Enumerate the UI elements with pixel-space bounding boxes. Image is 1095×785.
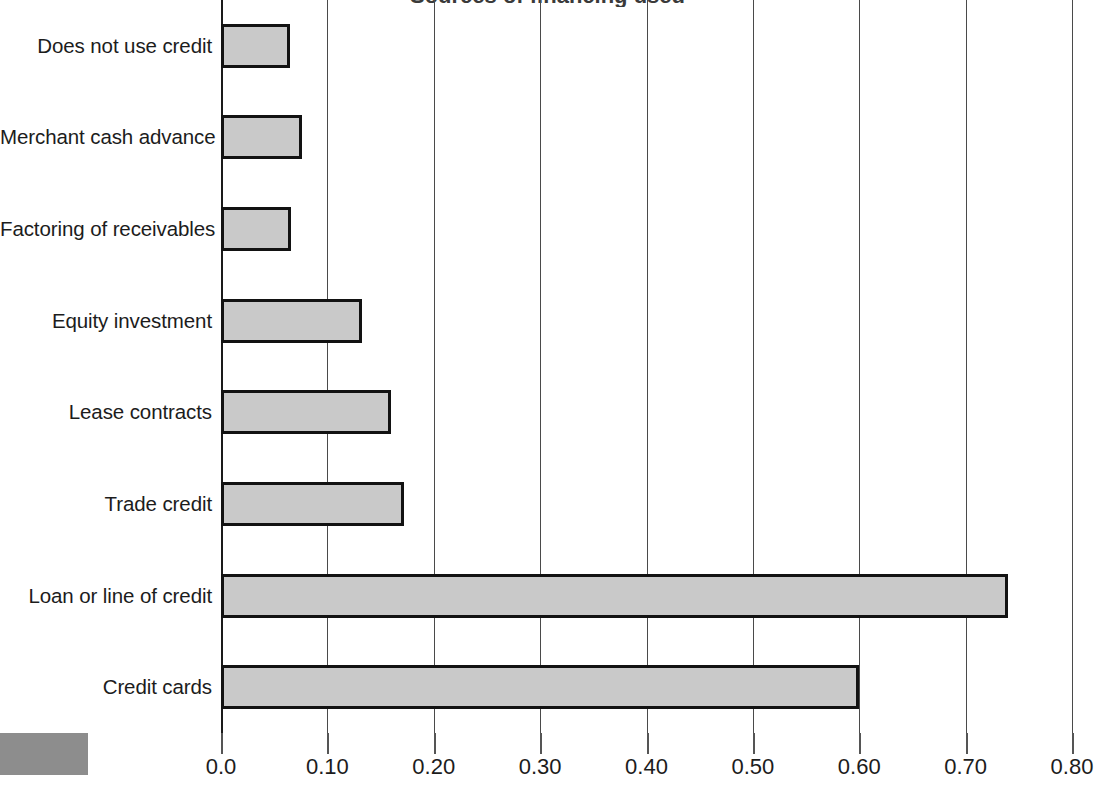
- y-axis-label: Lease contracts: [0, 401, 212, 423]
- gridline: [540, 0, 541, 733]
- bar: [221, 482, 404, 526]
- x-axis-tick-label: 0.20: [412, 752, 455, 782]
- x-axis-tick-label: 0.50: [731, 752, 774, 782]
- x-axis-tick: [221, 733, 223, 754]
- x-axis-tick-label: 0.0: [206, 752, 237, 782]
- x-axis-tick-label: 0.60: [838, 752, 881, 782]
- bar: [221, 665, 859, 709]
- gridline: [966, 0, 967, 733]
- gridline: [753, 0, 754, 733]
- x-axis-tick: [647, 733, 649, 754]
- x-axis-tick: [966, 733, 968, 754]
- y-axis-label: Credit cards: [0, 676, 212, 698]
- x-axis-tick-label: 0.30: [519, 752, 562, 782]
- bar: [221, 115, 302, 159]
- plot-area: [221, 0, 1095, 733]
- gridline: [327, 0, 328, 733]
- gridline: [859, 0, 860, 733]
- x-axis-tick-label: 0.80: [1051, 752, 1094, 782]
- x-axis-tick: [434, 733, 436, 754]
- x-axis-tick-label: 0.10: [306, 752, 349, 782]
- y-axis-label: Equity investment: [0, 310, 212, 332]
- x-axis-tick-labels: 0.00.100.200.300.400.500.600.700.80: [0, 752, 1095, 785]
- x-axis-tick: [327, 733, 329, 754]
- gridline: [434, 0, 435, 733]
- bar: [221, 207, 291, 251]
- y-axis-label: Merchant cash advance: [0, 126, 212, 148]
- y-axis-label: Does not use credit: [0, 35, 212, 57]
- x-axis-tick-label: 0.40: [625, 752, 668, 782]
- bar: [221, 574, 1008, 618]
- y-axis-label: Loan or line of credit: [0, 585, 212, 607]
- legend-color-swatch: [0, 733, 88, 775]
- gridline: [647, 0, 648, 733]
- x-axis-tick: [540, 733, 542, 754]
- bar: [221, 24, 290, 68]
- y-axis-line: [221, 0, 223, 733]
- gridline: [1072, 0, 1073, 733]
- y-axis-category-labels: Does not use creditMerchant cash advance…: [0, 0, 212, 733]
- bar: [221, 390, 391, 434]
- x-axis-tick: [753, 733, 755, 754]
- y-axis-label: Trade credit: [0, 493, 212, 515]
- x-axis-tick: [1072, 733, 1074, 754]
- y-axis-label: Factoring of receivables: [0, 218, 212, 240]
- x-axis-tick-label: 0.70: [944, 752, 987, 782]
- bar: [221, 299, 362, 343]
- horizontal-bar-chart: Sources of financing used Does not use c…: [0, 0, 1095, 785]
- x-axis-tick: [859, 733, 861, 754]
